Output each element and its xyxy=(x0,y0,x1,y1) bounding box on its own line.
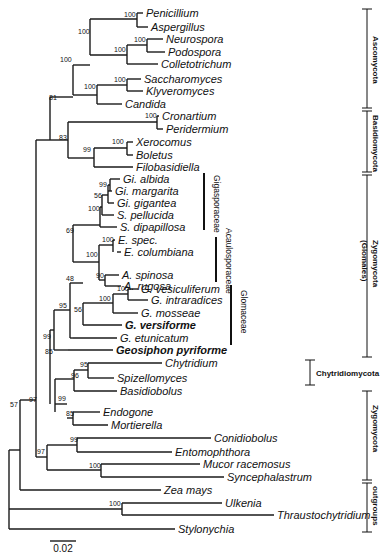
bootstrap-value: 99 xyxy=(58,395,66,402)
bootstrap-value: 48 xyxy=(66,275,74,282)
phylogenetic-tree: 1001001001001001001008110083100999956100… xyxy=(0,0,385,553)
group-brackets: AscomycotaBasidiomycotaZygomycota(Glomal… xyxy=(305,9,380,532)
taxon-label: E. columbiana xyxy=(124,246,194,258)
taxon-label: Stylonychia xyxy=(178,523,234,535)
taxon-label: Boletus xyxy=(136,149,173,161)
bootstrap-value: 100 xyxy=(60,56,72,63)
scale-bar-label: 0.02 xyxy=(53,543,73,553)
taxon-label: G. etunicatum xyxy=(120,332,188,344)
group-label: Chytridiomycota xyxy=(316,369,380,378)
bootstrap-value: 99 xyxy=(99,181,107,188)
taxon-label: Thraustochytridium xyxy=(277,509,371,521)
bootstrap-value: 100 xyxy=(114,46,126,53)
taxon-label: Saccharomyces xyxy=(144,73,223,85)
bootstrap-value: 85 xyxy=(66,410,74,417)
taxon-label: E. spec. xyxy=(118,234,158,246)
taxon-label: G. mosseae xyxy=(141,307,200,319)
group-label: Basidiomycota xyxy=(371,115,380,172)
taxon-label: Gi. gigantea xyxy=(117,197,176,209)
group-label: outgroups xyxy=(371,486,380,526)
bootstrap-value: 100 xyxy=(112,138,124,145)
family-label: Gigasporaceae xyxy=(212,175,222,233)
taxon-label: Geosiphon pyriforme xyxy=(116,344,227,356)
scale-bar: 0.02 xyxy=(50,541,76,553)
bootstrap-value: 56 xyxy=(74,306,82,313)
group-label: Ascomycota xyxy=(371,36,380,84)
bootstrap-value: 100 xyxy=(145,112,157,119)
bootstrap-value: 99 xyxy=(43,333,51,340)
taxon-label: Zea mays xyxy=(163,484,213,496)
taxon-label: Klyveromyces xyxy=(146,85,215,97)
bootstrap-value: 97 xyxy=(37,448,45,455)
group-label: Zygomycota xyxy=(371,405,380,453)
taxon-label: Entomophthora xyxy=(175,446,250,458)
taxon-label: Neurospora xyxy=(166,33,223,45)
taxon-label: Mortierella xyxy=(111,419,162,431)
taxon-label: G. intraradices xyxy=(151,294,223,306)
bootstrap-value: 100 xyxy=(109,500,121,507)
taxon-label: Basidiobolus xyxy=(120,385,183,397)
taxon-labels: PenicilliumAspergillusNeurosporaPodospor… xyxy=(103,7,371,535)
taxon-label: Spizellomyces xyxy=(117,372,188,384)
taxon-label: Ulkenia xyxy=(225,497,262,509)
taxon-label: Aspergillus xyxy=(150,21,205,33)
taxon-label: Syncephalastrum xyxy=(227,471,312,483)
taxon-label: Podospora xyxy=(168,46,221,58)
bootstrap-value: 100 xyxy=(114,76,126,83)
taxon-label: Mucor racemosus xyxy=(203,458,291,470)
bootstrap-value: 100 xyxy=(102,236,114,243)
taxon-label: Penicillium xyxy=(146,7,199,19)
bootstrap-value: 100 xyxy=(99,295,111,302)
bootstrap-value: 100 xyxy=(89,462,101,469)
family-label: Glomaceae xyxy=(239,290,249,334)
bootstrap-value: 99 xyxy=(83,146,91,153)
taxon-label: Candida xyxy=(125,98,166,110)
taxon-label: S. dipapillosa xyxy=(120,221,185,233)
taxon-label: Gi. albida xyxy=(123,173,169,185)
bootstrap-value: 69 xyxy=(66,227,74,234)
bootstrap-value: 100 xyxy=(134,36,146,43)
taxon-label: Conidiobolus xyxy=(214,432,278,444)
taxon-label: G. versiforme xyxy=(125,319,196,331)
group-label: Zygomycota xyxy=(371,240,380,288)
bootstrap-value: 100 xyxy=(84,83,96,90)
taxon-label: Cronartium xyxy=(162,110,216,122)
taxon-label: Endogone xyxy=(103,406,153,418)
taxon-label: Gi. margarita xyxy=(115,185,179,197)
bootstrap-value: 100 xyxy=(124,11,136,18)
bootstrap-value: 100 xyxy=(86,251,98,258)
bootstrap-value: 57 xyxy=(10,401,18,408)
bootstrap-value: 96 xyxy=(71,372,79,379)
bootstrap-value: 95 xyxy=(59,302,67,309)
taxon-label: Chytridium xyxy=(165,357,218,369)
bootstrap-value: 99 xyxy=(70,436,78,443)
bootstrap-value: 95 xyxy=(80,361,88,368)
bootstrap-value: 100 xyxy=(88,205,100,212)
bootstrap-value: 90 xyxy=(96,272,104,279)
bootstrap-values: 1001001001001001001008110083100999956100… xyxy=(10,11,157,507)
bootstrap-value: 97 xyxy=(29,396,37,403)
taxon-label: Colletotrichum xyxy=(161,58,231,70)
bootstrap-value: 85 xyxy=(45,348,53,355)
taxon-label: Peridermium xyxy=(166,123,228,135)
bootstrap-value: 81 xyxy=(49,94,57,101)
bootstrap-value: 100 xyxy=(78,28,90,35)
group-label: (Glomales) xyxy=(360,240,369,282)
bootstrap-value: 83 xyxy=(59,134,67,141)
taxon-label: Xerocomus xyxy=(135,136,192,148)
family-brackets: GigasporaceaeAcaulosporaceaeGlomaceae xyxy=(204,173,249,345)
taxon-label: Filobasidiella xyxy=(136,161,200,173)
taxon-label: S. pellucida xyxy=(117,209,174,221)
bootstrap-value: 56 xyxy=(94,192,102,199)
family-label: Acaulosporaceae xyxy=(224,228,234,294)
